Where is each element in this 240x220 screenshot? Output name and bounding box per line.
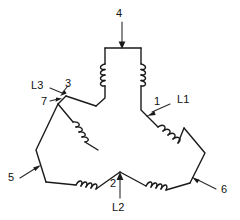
right-diagonal-coil xyxy=(158,125,180,143)
wye-winding-diagram: 4 L3 3 7 1 L1 5 2 L2 6 xyxy=(0,0,240,220)
left-arm-upper-edge xyxy=(66,96,96,106)
terminal-label-2: 2 xyxy=(110,178,116,189)
terminal-label-4: 4 xyxy=(116,8,122,19)
left-arm-vertex-cap xyxy=(58,96,66,104)
diagram-canvas xyxy=(0,0,240,220)
left-diagonal-coil xyxy=(73,122,88,142)
bottom-left-arm-coil xyxy=(76,181,97,189)
bottom-right-arm-start xyxy=(120,172,146,186)
left-arm-lower-edge-a xyxy=(58,104,73,122)
leader-line-l3 xyxy=(50,88,62,93)
bottom-left-arm-start xyxy=(46,182,76,185)
leader-terminal-5 xyxy=(20,168,36,178)
top-right-leg-lower xyxy=(141,86,147,116)
top-left-leg-lower xyxy=(96,86,105,106)
left-arm-outer-edge xyxy=(36,104,58,182)
terminal-label-5: 5 xyxy=(8,172,14,183)
line-label-l1: L1 xyxy=(177,94,190,105)
left-arm-lower-edge-b xyxy=(85,142,98,150)
right-arm-inner-edge-a xyxy=(147,116,158,127)
terminal-label-6: 6 xyxy=(221,184,227,195)
terminal-label-7: 7 xyxy=(41,96,47,107)
terminal-label-1: 1 xyxy=(154,96,160,107)
arrowhead-terminal-6 xyxy=(192,177,200,183)
top-right-leg-coil xyxy=(141,64,146,86)
arrowhead-terminal-5 xyxy=(33,165,41,171)
bottom-right-arm-coil xyxy=(146,182,167,190)
line-label-l3: L3 xyxy=(31,80,44,91)
right-arm-outer-edge xyxy=(184,128,205,183)
bottom-right-arm-end xyxy=(166,183,190,190)
top-left-leg-coil xyxy=(101,64,106,86)
line-label-l2: L2 xyxy=(112,202,125,213)
bottom-left-arm-end xyxy=(96,172,120,189)
terminal-label-3: 3 xyxy=(65,78,71,89)
leader-terminal-6 xyxy=(198,180,216,189)
arrowhead-terminal-1 xyxy=(147,111,156,116)
right-arm-inner-edge-b xyxy=(178,128,184,143)
